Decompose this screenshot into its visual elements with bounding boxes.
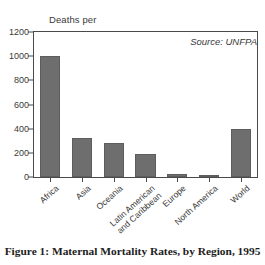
x-tick-label-text: World	[228, 183, 251, 205]
figure-container: Deaths per 100,000 Live Births 020040060…	[0, 0, 265, 265]
bar-series	[34, 32, 257, 177]
y-tick-label: 800	[1, 75, 29, 85]
y-tick-label: 1200	[1, 27, 29, 37]
x-tick-label-text: Asia	[73, 183, 92, 202]
y-tick-label: 1000	[1, 51, 29, 61]
x-tick-mark	[241, 178, 242, 182]
x-tick-mark	[114, 178, 115, 182]
y-tick-mark	[28, 32, 33, 33]
x-tick-label-text: Africa	[38, 183, 61, 205]
y-tick-mark	[28, 128, 33, 129]
x-tick-mark	[82, 178, 83, 182]
bar-slot	[34, 32, 66, 177]
y-axis-title-line1: Deaths per	[49, 14, 96, 25]
bar[interactable]	[72, 138, 92, 177]
y-tick-label: 400	[1, 124, 29, 134]
x-tick-label-text: Oceania	[94, 183, 124, 212]
bar-slot	[66, 32, 98, 177]
bar-slot	[98, 32, 130, 177]
x-tick-mark	[146, 178, 147, 182]
y-tick-label: 600	[1, 100, 29, 110]
x-tick-mark	[209, 178, 210, 182]
y-tick-mark	[28, 80, 33, 81]
bar[interactable]	[104, 143, 124, 177]
y-tick-mark	[28, 56, 33, 57]
bar[interactable]	[40, 56, 60, 177]
y-tick-label: 200	[1, 148, 29, 158]
bar-slot	[130, 32, 162, 177]
y-tick-mark	[28, 177, 33, 178]
y-tick-mark	[28, 104, 33, 105]
x-axis-labels: AfricaAsiaOceaniaLatin American and Cari…	[34, 183, 257, 238]
source-annotation: Source: UNFPA	[190, 36, 257, 47]
figure-caption: Figure 1: Maternal Mortality Rates, by R…	[0, 245, 265, 257]
y-tick-mark	[28, 152, 33, 153]
y-tick-label: 0	[1, 172, 29, 182]
x-tick-mark	[50, 178, 51, 182]
